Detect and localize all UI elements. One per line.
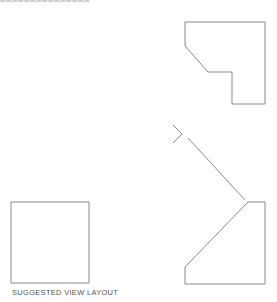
view-layout-diagram bbox=[0, 0, 277, 302]
projection-line bbox=[188, 138, 245, 200]
chevron-icon bbox=[173, 125, 182, 143]
top-right-view bbox=[185, 22, 265, 104]
diagram-caption: SUGGESTED VIEW LAYOUT bbox=[12, 288, 118, 297]
bottom-right-view bbox=[185, 202, 265, 284]
bottom-left-view bbox=[11, 202, 89, 283]
